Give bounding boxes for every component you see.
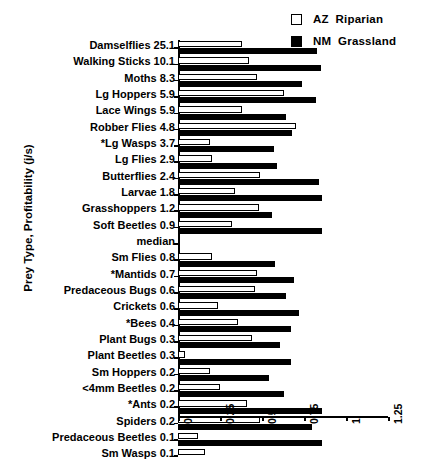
- bar-az-riparian: [178, 319, 238, 325]
- category-label: Soft Beetles 0.9: [15, 219, 175, 231]
- bar-nm-grassland: [178, 81, 302, 87]
- bar-row: Robber Flies 4.8: [178, 122, 388, 138]
- bar-row: Crickets 0.6: [178, 301, 388, 317]
- bar-az-riparian: [178, 90, 284, 96]
- category-label: Lace Wings 5.9: [15, 104, 175, 116]
- bar-az-riparian: [178, 351, 185, 357]
- bar-rows: Damselflies 25.1Walking Sticks 10.1Moths…: [178, 40, 388, 465]
- bar-row: Predaceous Bugs 0.6: [178, 285, 388, 301]
- bar-az-riparian: [178, 139, 210, 145]
- bar-az-riparian: [178, 172, 260, 178]
- bar-az-riparian: [178, 57, 249, 63]
- bar-row: Lg Hoppers 5.9: [178, 89, 388, 105]
- bar-nm-grassland: [178, 228, 322, 234]
- bar-nm-grassland: [178, 195, 322, 201]
- category-label: Plant Bugs 0.3: [15, 333, 175, 345]
- bar-row: <4mm Beetles 0.2: [178, 383, 388, 399]
- bar-az-riparian: [178, 384, 220, 390]
- legend-swatch-open-icon: [291, 14, 302, 25]
- x-tick-label: 1: [350, 418, 362, 424]
- bar-row: *Bees 0.4: [178, 318, 388, 334]
- x-tick-label: 1.25: [392, 404, 404, 424]
- bar-nm-grassland: [178, 375, 269, 381]
- bar-nm-grassland: [178, 293, 286, 299]
- x-tick-mark: [304, 417, 306, 421]
- bar-row: Lace Wings 5.9: [178, 105, 388, 121]
- category-label: *Ants 0.2: [15, 398, 175, 410]
- bar-az-riparian: [178, 368, 210, 374]
- x-tick-mark: [346, 417, 348, 421]
- x-tick-mark: [388, 417, 390, 421]
- bar-nm-grassland: [178, 326, 291, 332]
- category-label: *Lg Wasps 3.7: [15, 137, 175, 149]
- bar-nm-grassland: [178, 97, 316, 103]
- category-label: Grasshoppers 1.2: [15, 202, 175, 214]
- category-label: Sm Wasps 0.1: [15, 447, 175, 459]
- category-label: Spiders 0.2: [15, 415, 175, 427]
- bar-az-riparian: [178, 74, 257, 80]
- bar-nm-grassland: [178, 212, 272, 218]
- bar-row: median: [178, 236, 388, 252]
- bar-nm-grassland: [178, 163, 277, 169]
- legend-label-az: AZ Riparian: [313, 13, 383, 25]
- bar-row: *Mantids 0.7: [178, 269, 388, 285]
- bar-row: Sm Flies 0.8: [178, 252, 388, 268]
- bar-nm-grassland: [178, 48, 317, 54]
- bar-az-riparian: [178, 204, 259, 210]
- bar-nm-grassland: [178, 179, 319, 185]
- bar-row: Damselflies 25.1: [178, 40, 388, 56]
- x-tick-label: 0.75: [308, 404, 320, 424]
- x-tick-label: 0.25: [224, 404, 236, 424]
- category-label: *Bees 0.4: [15, 317, 175, 329]
- bar-az-riparian: [178, 155, 212, 161]
- bar-row: Larvae 1.8: [178, 187, 388, 203]
- legend-item-az: AZ Riparian: [291, 8, 396, 30]
- category-label: Sm Flies 0.8: [15, 251, 175, 263]
- bar-row: Walking Sticks 10.1: [178, 56, 388, 72]
- bar-az-riparian: [178, 106, 242, 112]
- category-label: Walking Sticks 10.1: [15, 55, 175, 67]
- bar-nm-grassland: [178, 359, 291, 365]
- x-tick-mark: [178, 417, 180, 421]
- category-label: Larvae 1.8: [15, 186, 175, 198]
- bar-nm-grassland: [178, 342, 280, 348]
- bar-row: Sm Hoppers 0.2: [178, 367, 388, 383]
- x-tick-mark: [220, 417, 222, 421]
- bar-row: *Ants 0.2: [178, 399, 388, 415]
- x-tick-mark: [262, 417, 264, 421]
- bar-nm-grassland: [178, 146, 274, 152]
- bar-nm-grassland: [178, 261, 275, 267]
- bar-nm-grassland: [178, 65, 321, 71]
- category-label: *Mantids 0.7: [15, 268, 175, 280]
- bar-row: Moths 8.3: [178, 73, 388, 89]
- category-label: Robber Flies 4.8: [15, 121, 175, 133]
- bar-row: Soft Beetles 0.9: [178, 220, 388, 236]
- x-axis-ticks: 00.250.50.7511.25: [178, 417, 390, 466]
- bar-az-riparian: [178, 286, 255, 292]
- x-tick-label: 0: [182, 418, 194, 424]
- bar-row: Plant Bugs 0.3: [178, 334, 388, 350]
- bar-az-riparian: [178, 41, 242, 47]
- bar-az-riparian: [178, 221, 232, 227]
- bar-chart: AZ Riparian NM Grassland Prey Type, Prof…: [0, 0, 447, 466]
- bar-az-riparian: [178, 302, 218, 308]
- bar-az-riparian: [178, 270, 257, 276]
- bar-row: Plant Beetles 0.3: [178, 350, 388, 366]
- category-label: Plant Beetles 0.3: [15, 349, 175, 361]
- category-label: Crickets 0.6: [15, 300, 175, 312]
- bar-row: Butterflies 2.4: [178, 171, 388, 187]
- bar-row: Grasshoppers 1.2: [178, 203, 388, 219]
- bar-row: Lg Flies 2.9: [178, 154, 388, 170]
- bar-nm-grassland: [178, 277, 294, 283]
- category-label: <4mm Beetles 0.2: [15, 382, 175, 394]
- bar-nm-grassland: [178, 310, 299, 316]
- category-label: Predaceous Beetles 0.1: [15, 431, 175, 443]
- category-label: Lg Flies 2.9: [15, 153, 175, 165]
- category-label: Damselflies 25.1: [15, 39, 175, 51]
- bar-row: *Lg Wasps 3.7: [178, 138, 388, 154]
- bar-az-riparian: [178, 123, 296, 129]
- category-label: median: [15, 235, 175, 247]
- category-label: Lg Hoppers 5.9: [15, 88, 175, 100]
- category-label: Sm Hoppers 0.2: [15, 366, 175, 378]
- plot-area: Damselflies 25.1Walking Sticks 10.1Moths…: [178, 40, 388, 416]
